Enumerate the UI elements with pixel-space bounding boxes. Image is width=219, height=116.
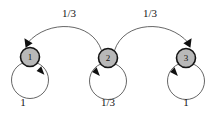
- node-circle-3[interactable]: [177, 49, 196, 68]
- markov-chain-diagram: 1 2 3 1/3 1/3 1 1/3 1: [0, 0, 219, 116]
- diagram-canvas: 1 2 3 1/3 1/3 1 1/3 1: [0, 0, 219, 116]
- arc-group-2-to-1: [24, 27, 101, 51]
- arc-label-2-to-1: 1/3: [62, 7, 77, 19]
- self-loop-label-node-2: 1/3: [101, 96, 116, 108]
- node-2[interactable]: 2: [99, 49, 118, 68]
- arc-arrowhead-2-to-1: [24, 38, 32, 48]
- self-loop-label-node-3: 1: [183, 96, 189, 108]
- self-loop-arrowhead-node-3: [170, 67, 178, 76]
- arc-path-2-to-3: [115, 27, 189, 51]
- arc-arrowhead-2-to-3: [183, 38, 191, 48]
- node-circle-1[interactable]: [21, 48, 40, 67]
- self-loop-label-node-1: 1: [20, 96, 26, 108]
- node-circle-2[interactable]: [99, 49, 118, 68]
- node-1[interactable]: 1: [21, 48, 40, 67]
- node-3[interactable]: 3: [177, 49, 196, 68]
- arc-label-2-to-3: 1/3: [143, 7, 158, 19]
- arc-group-2-to-3: [115, 27, 192, 51]
- self-loop-arrowhead-node-2: [92, 67, 100, 76]
- arc-path-2-to-1: [28, 27, 102, 51]
